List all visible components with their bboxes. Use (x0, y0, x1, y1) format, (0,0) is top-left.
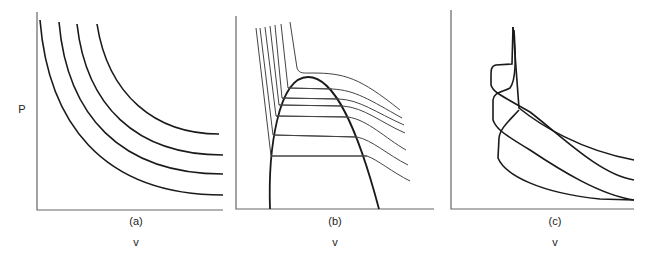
panel-c-x-label: v (552, 236, 558, 248)
panel-a-x-label: v (133, 236, 139, 248)
isotherm-a-1 (40, 20, 223, 195)
panel-b-x-label: v (332, 236, 338, 248)
panel-c (451, 10, 634, 209)
isotherm-a-2 (59, 22, 223, 174)
panel-a (37, 12, 223, 210)
isotherm-c-1 (513, 27, 634, 160)
isotherm-a-4 (97, 24, 219, 134)
panel-c-caption: (c) (549, 215, 562, 227)
isotherm-c-2 (491, 27, 634, 180)
panel-b (236, 16, 434, 209)
isotherm-a-3 (77, 24, 223, 155)
isotherms-b (256, 22, 410, 181)
y-axis-label: P (18, 103, 25, 115)
panel-b-caption: (b) (328, 215, 341, 227)
panel-c-axes (451, 10, 634, 209)
panel-a-caption: (a) (129, 215, 142, 227)
